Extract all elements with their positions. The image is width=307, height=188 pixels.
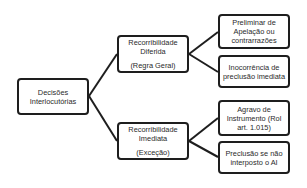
branch-node-recorribilidade-diferida: Recorribilidade Diferida (Regra Geral) (117, 35, 189, 73)
leaf-node-agravo-instrumento: Agravo de Instrumento (Rol art. 1.015) (218, 100, 290, 136)
leaf-label: Preliminar de Apelação ou contrarrazões (222, 18, 286, 45)
leaf-node-preliminar-apelacao: Preliminar de Apelação ou contrarrazões (218, 14, 290, 49)
leaf-label: Inocorrência de preclusão imediata (222, 63, 286, 81)
branch-title-line2: Imediata (139, 134, 167, 143)
branch-subtitle: (Exceção) (136, 148, 169, 157)
branch-subtitle: (Regra Geral) (130, 61, 175, 70)
root-label: Decisões Interlocutórias (21, 88, 85, 106)
branch-title-line2: Diferida (140, 47, 165, 56)
leaf-label: Agravo de Instrumento (Rol art. 1.015) (222, 105, 286, 132)
leaf-node-preclusao-nao-interposto: Preclusão se não interposto o AI (218, 141, 290, 174)
root-node-decisoes-interlocutorias: Decisões Interlocutórias (17, 78, 89, 115)
branch-title-line1: Recorribilidade (128, 125, 177, 134)
branch-title-line1: Recorribilidade (128, 38, 177, 47)
leaf-node-inocorrencia-preclusao: Inocorrência de preclusão imediata (218, 55, 290, 88)
branch-node-recorribilidade-imediata: Recorribilidade Imediata (Exceção) (117, 122, 189, 160)
leaf-label: Preclusão se não interposto o AI (222, 149, 286, 167)
